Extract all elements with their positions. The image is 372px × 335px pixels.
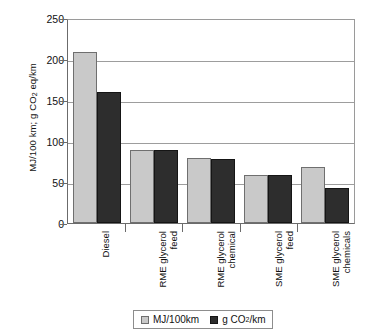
legend-item-mj: MJ/100km [141, 314, 199, 325]
category-label: Diesel [101, 231, 112, 335]
legend-label-co2-suffix: /km [249, 314, 265, 325]
bar [73, 52, 97, 223]
bar [211, 159, 235, 223]
bar [154, 150, 178, 223]
bar-group [125, 20, 182, 223]
y-tick-label-200: 200 [24, 55, 64, 65]
legend-swatch-co2-icon [210, 316, 218, 324]
bar [268, 175, 292, 223]
category-label: SME glycerol feed [274, 231, 295, 335]
bar [325, 188, 349, 223]
y-tick-label-250: 250 [24, 14, 64, 24]
x-tick-separator [125, 224, 126, 232]
y-tick-label-0: 0 [24, 219, 64, 229]
bar [130, 150, 154, 223]
category-label: SME glycerol chemicals [331, 231, 352, 335]
x-tick-separator [182, 224, 183, 232]
y-tick-mark-100 [60, 142, 67, 143]
legend-label-co2: g CO [222, 314, 245, 325]
x-tick-separator [297, 224, 298, 232]
bar-chart: MJ/100 km; g CO2 eq/km 050100150200250 D… [0, 0, 372, 335]
y-tick-label-100: 100 [24, 137, 64, 147]
legend-item-co2: g CO2/km [210, 314, 265, 325]
bar-group [297, 20, 354, 223]
bar [301, 167, 325, 223]
y-axis-title-prefix: MJ/100 km; g CO [27, 96, 38, 171]
y-tick-mark-250 [60, 19, 67, 20]
legend-swatch-mj-icon [141, 316, 149, 324]
bar-group [240, 20, 297, 223]
bar [97, 92, 121, 223]
bar-group [68, 20, 125, 223]
y-tick-mark-50 [60, 183, 67, 184]
y-tick-mark-200 [60, 60, 67, 61]
y-tick-mark-150 [60, 101, 67, 102]
y-tick-mark-0 [60, 224, 67, 225]
y-tick-label-150: 150 [24, 96, 64, 106]
bar-groups [68, 20, 354, 223]
x-tick-separator [240, 224, 241, 232]
y-axis-title-suffix: eq/km [27, 63, 38, 92]
chart-legend: MJ/100km g CO2/km [133, 310, 273, 329]
y-tick-label-50: 50 [24, 178, 64, 188]
legend-label-mj: MJ/100km [153, 314, 199, 325]
bar [187, 158, 211, 223]
bar-group [182, 20, 239, 223]
bar [244, 175, 268, 223]
